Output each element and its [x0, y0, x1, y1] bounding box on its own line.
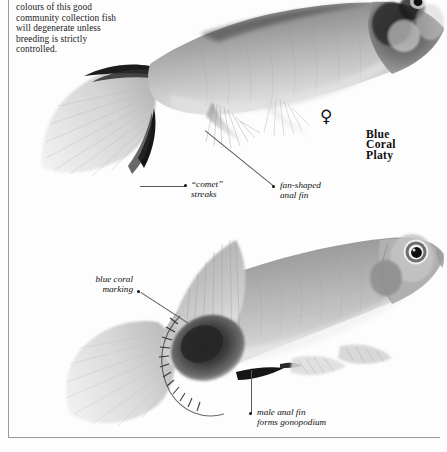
female-symbol-icon: ♀ [320, 108, 332, 125]
book-page: colours of this good community collectio… [0, 0, 447, 452]
callout-male-anal-fin: male anal fin forms gonopodium [257, 407, 326, 428]
callout-comet-streaks-line-1: “comet” [191, 179, 223, 189]
callout-male-anal-fin-line-2: forms gonopodium [257, 417, 326, 427]
page-bottom-rule [8, 437, 440, 438]
callout-male-anal-fin-line-1: male anal fin [257, 407, 326, 417]
callout-blue-coral-marking-line-1: blue coral [63, 274, 133, 284]
callout-fan-shaped-anal-fin-line-2: anal fin [280, 190, 321, 200]
callout-comet-streaks: “comet” streaks [191, 179, 223, 200]
figure-male-platy [40, 196, 447, 452]
species-caption: Blue Coral Platy [366, 130, 396, 161]
callout-blue-coral-marking: blue coral marking [63, 274, 133, 295]
leader-line-male-anal-fin [251, 370, 252, 414]
callout-comet-streaks-line-2: streaks [191, 189, 223, 199]
body-paragraph: colours of this good community collectio… [16, 2, 128, 55]
leader-line-comet-streaks [140, 186, 185, 187]
page-left-rule [8, 0, 9, 437]
callout-fan-shaped-anal-fin-line-1: fan-shaped [280, 180, 321, 190]
callout-blue-coral-marking-line-2: marking [63, 284, 133, 294]
species-caption-line-3: Platy [366, 149, 393, 162]
callout-fan-shaped-anal-fin: fan-shaped anal fin [280, 180, 321, 201]
